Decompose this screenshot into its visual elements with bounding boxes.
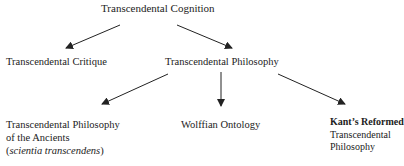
kant-line1: Kant’s Reformed xyxy=(330,116,404,129)
ancients-line3: (scientia transcendens) xyxy=(6,144,120,157)
paren-close: ) xyxy=(100,145,104,156)
arrow-philosophy-to-kant xyxy=(278,74,345,104)
ancients-line1: Transcendental Philosophy xyxy=(6,118,120,131)
node-kants-reformed-philosophy: Kant’s Reformed Transcendental Philosoph… xyxy=(330,116,404,154)
node-transcendental-critique: Transcendental Critique xyxy=(6,55,107,68)
kant-line2: Transcendental xyxy=(330,129,404,142)
node-wolffian-ontology: Wolffian Ontology xyxy=(181,118,260,131)
arrow-root-to-critique xyxy=(66,25,120,48)
node-transcendental-philosophy: Transcendental Philosophy xyxy=(165,55,279,68)
arrow-philosophy-to-ancients xyxy=(102,74,168,104)
latin-term: scientia transcendens xyxy=(10,145,101,156)
arrow-root-to-philosophy xyxy=(177,25,232,48)
ancients-line2: of the Ancients xyxy=(6,131,120,144)
kant-line3: Philosophy xyxy=(330,141,404,154)
node-philosophy-of-ancients: Transcendental Philosophy of the Ancient… xyxy=(6,118,120,157)
node-transcendental-cognition: Transcendental Cognition xyxy=(101,2,215,15)
